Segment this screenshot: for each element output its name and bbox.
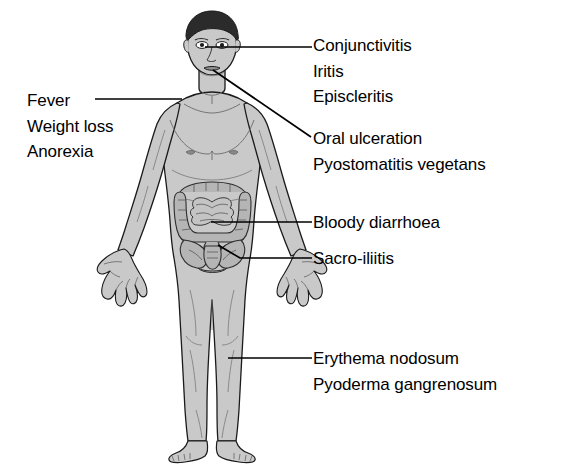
label-skin-line-1: Erythema nodosum bbox=[313, 346, 497, 372]
left-hand bbox=[97, 249, 147, 306]
label-mouth-line-2: Pyostomatitis vegetans bbox=[313, 152, 486, 178]
label-oral-manifestations: Oral ulceration Pyostomatitis vegetans bbox=[313, 126, 486, 177]
label-sacro-line-1: Sacro-iliitis bbox=[313, 246, 394, 272]
label-systemic-line-3: Anorexia bbox=[27, 139, 113, 165]
label-bowel-manifestation: Bloody diarrhoea bbox=[313, 210, 440, 236]
label-eye-manifestations: Conjunctivitis Iritis Episcleritis bbox=[313, 33, 412, 110]
label-eye-line-3: Episcleritis bbox=[313, 84, 412, 110]
label-eye-line-2: Iritis bbox=[313, 59, 412, 85]
label-skin-line-2: Pyoderma gangrenosum bbox=[313, 372, 497, 398]
label-systemic-line-1: Fever bbox=[27, 88, 113, 114]
label-systemic-line-2: Weight loss bbox=[27, 114, 113, 140]
label-joint-manifestation: Sacro-iliitis bbox=[313, 246, 394, 272]
human-figure-illustration bbox=[0, 0, 571, 474]
body-figure bbox=[97, 11, 327, 463]
label-mouth-line-1: Oral ulceration bbox=[313, 126, 486, 152]
label-systemic-manifestations: Fever Weight loss Anorexia bbox=[27, 88, 113, 165]
anatomical-diagram: Conjunctivitis Iritis Episcleritis Oral … bbox=[0, 0, 571, 474]
label-eye-line-1: Conjunctivitis bbox=[313, 33, 412, 59]
label-skin-manifestations: Erythema nodosum Pyoderma gangrenosum bbox=[313, 346, 497, 397]
label-bowel-line-1: Bloody diarrhoea bbox=[313, 210, 440, 236]
